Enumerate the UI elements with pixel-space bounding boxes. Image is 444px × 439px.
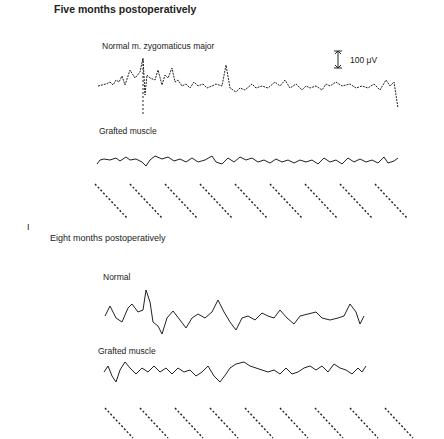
emg-traces [0, 0, 444, 439]
trace-bottom-grafted [104, 362, 366, 382]
trace-bottom-normal [105, 290, 364, 334]
scale-bar-icon [334, 51, 342, 68]
time-markers-top [95, 184, 407, 218]
trace-top-grafted [97, 156, 398, 166]
time-markers-bottom [105, 408, 413, 438]
